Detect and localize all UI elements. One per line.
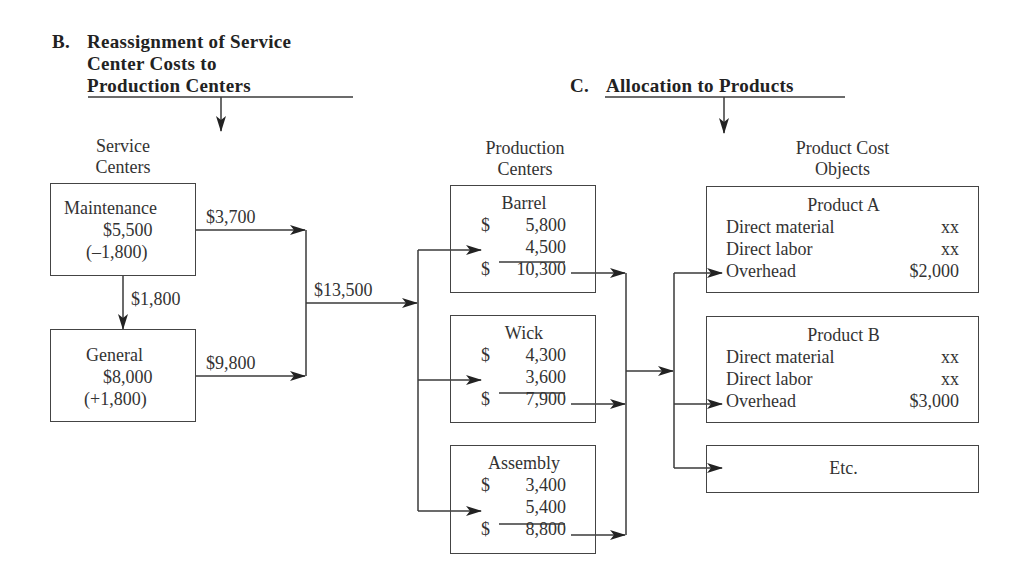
flow-general-to-production: $9,800 — [206, 353, 256, 374]
wick-total: 7,900 — [501, 389, 566, 410]
barrel-name: Barrel — [451, 193, 597, 214]
maintenance-adjustment: (–1,800) — [86, 242, 148, 263]
product-b-name: Product B — [707, 325, 980, 346]
barrel-total: 10,300 — [501, 259, 566, 280]
product-a-direct-material-label: Direct material — [726, 217, 834, 238]
barrel-direct: 5,800 — [501, 215, 566, 236]
assembly-direct: 3,400 — [501, 475, 566, 496]
production-centers-label-line-2: Centers — [455, 159, 595, 180]
maintenance-amount: $5,500 — [103, 220, 153, 241]
product-b-overhead-label: Overhead — [726, 391, 796, 412]
product-a-direct-material-value: xx — [857, 217, 959, 238]
product-b-direct-material-value: xx — [857, 347, 959, 368]
product-b-box: Product B Direct material xx Direct labo… — [706, 316, 979, 423]
section-c-letter: C. — [570, 75, 589, 97]
production-centers-label: Production Centers — [455, 138, 595, 180]
service-centers-label-line-2: Centers — [58, 157, 188, 178]
flow-maintenance-to-general: $1,800 — [131, 289, 181, 310]
product-a-box: Product A Direct material xx Direct labo… — [706, 186, 979, 293]
product-a-overhead-value: $2,000 — [857, 261, 959, 282]
flow-maintenance-to-production: $3,700 — [206, 207, 256, 228]
general-adjustment: (+1,800) — [84, 389, 147, 410]
barrel-dollar-1: $ — [481, 215, 490, 236]
product-a-overhead-label: Overhead — [726, 261, 796, 282]
service-centers-label-line-1: Service — [58, 136, 188, 157]
product-cost-objects-label: Product Cost Objects — [760, 138, 925, 180]
maintenance-box: Maintenance $5,500 (–1,800) — [50, 183, 196, 276]
maintenance-name: Maintenance — [64, 198, 157, 219]
wick-dollar-1: $ — [481, 345, 490, 366]
assembly-total: 8,800 — [501, 519, 566, 540]
wick-dollar-2: $ — [481, 389, 490, 410]
etc-box: Etc. — [706, 445, 979, 493]
product-b-direct-labor-label: Direct labor — [726, 369, 812, 390]
assembly-box: Assembly $ 3,400 5,400 $ 8,800 — [450, 445, 596, 554]
section-b-line-1: Reassignment of Service — [87, 31, 291, 53]
product-a-direct-labor-value: xx — [857, 239, 959, 260]
wick-allocated: 3,600 — [501, 367, 566, 388]
wick-box: Wick $ 4,300 3,600 $ 7,900 — [450, 315, 596, 423]
section-b-letter: B. — [52, 31, 70, 53]
general-box: General $8,000 (+1,800) — [50, 329, 196, 422]
product-b-overhead-value: $3,000 — [857, 391, 959, 412]
section-b-line-3: Production Centers — [87, 75, 251, 97]
product-cost-objects-label-line-2: Objects — [760, 159, 925, 180]
barrel-dollar-2: $ — [481, 259, 490, 280]
product-cost-objects-label-line-1: Product Cost — [760, 138, 925, 159]
barrel-box: Barrel $ 5,800 4,500 $ 10,300 — [450, 185, 596, 293]
wick-direct: 4,300 — [501, 345, 566, 366]
product-b-direct-material-label: Direct material — [726, 347, 834, 368]
assembly-allocated: 5,400 — [501, 497, 566, 518]
wick-name: Wick — [451, 323, 597, 344]
service-centers-label: Service Centers — [58, 136, 188, 178]
assembly-dollar-1: $ — [481, 475, 490, 496]
section-c-heading: Allocation to Products — [606, 75, 794, 97]
general-amount: $8,000 — [103, 367, 153, 388]
barrel-allocated: 4,500 — [501, 237, 566, 258]
product-b-direct-labor-value: xx — [857, 369, 959, 390]
section-b-title: B. Reassignment of Service Center Costs … — [52, 31, 352, 101]
general-name: General — [86, 345, 143, 366]
assembly-dollar-2: $ — [481, 519, 490, 540]
product-a-name: Product A — [707, 195, 980, 216]
assembly-name: Assembly — [451, 453, 597, 474]
product-a-direct-labor-label: Direct labor — [726, 239, 812, 260]
etc-label: Etc. — [707, 458, 980, 479]
section-c-title: C. Allocation to Products — [570, 75, 850, 97]
section-b-line-2: Center Costs to — [87, 53, 217, 75]
production-centers-label-line-1: Production — [455, 138, 595, 159]
flow-total-to-production: $13,500 — [314, 280, 373, 301]
